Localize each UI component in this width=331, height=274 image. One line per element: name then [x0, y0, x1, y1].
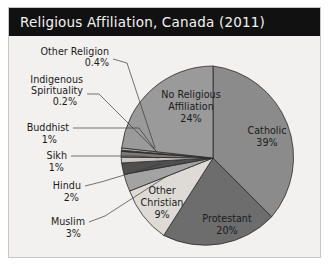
value-indigenous-spirituality: 0.2% [53, 96, 77, 107]
value-buddhist: 1% [42, 134, 57, 145]
label-hindu: Hindu [53, 180, 81, 191]
label-indigenous-spirituality-line1: Indigenous [30, 74, 83, 85]
label-protestant: Protestant [202, 213, 252, 224]
slice-no-religious-affiliation [122, 66, 213, 158]
plot-area: Other Religion 0.4% Indigenous Spiritual… [9, 36, 320, 257]
chart-title: Religious Affiliation, Canada (2011) [9, 14, 265, 30]
value-no-religious-affiliation: 24% [180, 113, 201, 124]
value-protestant: 20% [216, 225, 237, 236]
title-banner: Religious Affiliation, Canada (2011) [9, 8, 320, 36]
label-buddhist: Buddhist [27, 122, 70, 133]
pie-chart-figure: Religious Affiliation, Canada (2011) [0, 0, 331, 274]
label-other-religion: Other Religion [41, 46, 109, 57]
value-other-religion: 0.4% [85, 57, 109, 68]
label-sikh: Sikh [47, 150, 67, 161]
value-muslim: 3% [66, 228, 81, 239]
value-hindu: 2% [64, 192, 79, 203]
value-catholic: 39% [256, 137, 277, 148]
label-catholic: Catholic [248, 125, 287, 136]
label-muslim: Muslim [51, 216, 85, 227]
value-sikh: 1% [49, 162, 64, 173]
value-other-christian: 9% [154, 209, 169, 220]
label-no-religious-affiliation-line1: No Religious [161, 89, 220, 100]
label-no-religious-affiliation-line2: Affiliation [168, 101, 213, 112]
label-indigenous-spirituality-line2: Spirituality [31, 85, 83, 96]
